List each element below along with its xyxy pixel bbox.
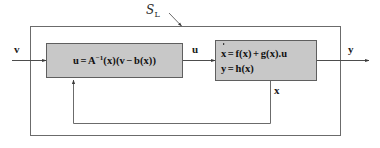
feedback-path-x — [74, 80, 271, 124]
signal-label-x: x — [274, 85, 280, 96]
system-boundary-subscript: L — [154, 10, 160, 19]
system-boundary-leader-line — [169, 13, 182, 26]
signal-label-u: u — [192, 44, 198, 55]
system-boundary-symbol: S — [146, 3, 154, 17]
system-boundary-label: SL — [146, 4, 160, 16]
diagram-canvas: SL u=A−1(x)(v−b(x)) x=f(x)+g(x).u y=h(x)… — [0, 0, 380, 148]
plant-block-rect[interactable] — [216, 41, 317, 81]
signal-label-y: y — [348, 44, 354, 55]
diagram-vector-layer — [0, 0, 380, 148]
signal-label-v: v — [14, 44, 20, 55]
controller-block-rect[interactable] — [47, 44, 183, 78]
